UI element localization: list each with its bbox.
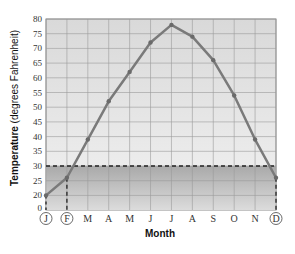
- x-axis-ticks: JFMAMJJASOND: [40, 213, 282, 225]
- svg-text:45: 45: [33, 117, 43, 127]
- data-point: [253, 137, 257, 141]
- svg-text:65: 65: [33, 58, 43, 68]
- svg-text:O: O: [231, 213, 238, 224]
- data-point: [107, 99, 111, 103]
- svg-text:80: 80: [33, 14, 43, 24]
- svg-text:75: 75: [33, 29, 43, 39]
- temperature-line-chart: 020253035404550556065707580 JFMAMJJASOND…: [0, 0, 295, 254]
- data-point: [190, 34, 194, 38]
- svg-text:A: A: [189, 213, 197, 224]
- data-point: [127, 70, 131, 74]
- data-point: [44, 193, 48, 197]
- plot-area: [44, 19, 278, 210]
- svg-text:60: 60: [33, 73, 43, 83]
- svg-text:0: 0: [38, 203, 43, 213]
- svg-text:A: A: [105, 213, 113, 224]
- y-axis-title: Temperature (degrees Fahrenheit): [9, 30, 20, 186]
- data-point: [232, 93, 236, 97]
- data-point: [274, 176, 278, 180]
- data-point: [148, 40, 152, 44]
- svg-text:50: 50: [33, 102, 43, 112]
- x-axis-title: Month: [145, 228, 175, 239]
- svg-text:J: J: [44, 213, 48, 224]
- svg-text:M: M: [125, 213, 134, 224]
- svg-text:S: S: [210, 213, 216, 224]
- svg-text:35: 35: [33, 146, 43, 156]
- svg-text:40: 40: [33, 132, 43, 142]
- y-axis-ticks: 020253035404550556065707580: [33, 14, 43, 213]
- svg-text:J: J: [149, 213, 153, 224]
- data-point: [169, 23, 173, 27]
- svg-text:J: J: [170, 213, 174, 224]
- svg-text:55: 55: [33, 88, 43, 98]
- svg-text:N: N: [251, 213, 258, 224]
- svg-text:D: D: [272, 213, 279, 224]
- svg-text:20: 20: [33, 190, 43, 200]
- shaded-region: [46, 166, 276, 210]
- data-point: [211, 58, 215, 62]
- data-point: [65, 176, 69, 180]
- svg-text:F: F: [64, 213, 70, 224]
- svg-text:25: 25: [33, 176, 43, 186]
- svg-text:30: 30: [33, 161, 43, 171]
- svg-text:M: M: [83, 213, 92, 224]
- svg-text:70: 70: [33, 43, 43, 53]
- data-point: [86, 137, 90, 141]
